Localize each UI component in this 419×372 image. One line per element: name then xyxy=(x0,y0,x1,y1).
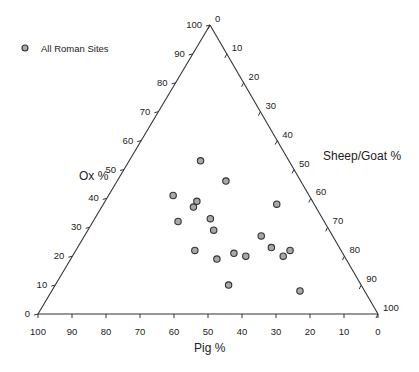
bottom-axis-title: Pig % xyxy=(194,341,226,355)
data-point xyxy=(175,218,181,224)
points-group xyxy=(170,158,303,294)
data-point xyxy=(170,192,176,198)
right-axis-title: Sheep/Goat % xyxy=(323,149,401,163)
right-tick-label: 70 xyxy=(333,215,344,226)
left-tick-label: 40 xyxy=(88,192,99,203)
right-tick xyxy=(242,83,244,87)
bottom-tick-label: 20 xyxy=(305,326,316,337)
data-point xyxy=(192,247,198,253)
right-tick xyxy=(292,170,294,174)
legend-marker xyxy=(22,45,28,51)
data-point xyxy=(225,282,231,288)
legend: All Roman Sites xyxy=(22,43,109,54)
left-tick-label: 30 xyxy=(71,221,82,232)
left-tick-label: 60 xyxy=(123,135,134,146)
left-tick-label: 0 xyxy=(25,308,30,319)
data-point xyxy=(268,244,274,250)
legend-label: All Roman Sites xyxy=(41,43,109,54)
right-tick-label: 30 xyxy=(265,100,276,111)
right-tick xyxy=(359,285,361,289)
bottom-tick-label: 60 xyxy=(169,326,180,337)
data-point xyxy=(231,250,237,256)
right-tick-label: 90 xyxy=(366,273,377,284)
data-point xyxy=(280,253,286,259)
bottom-tick-label: 90 xyxy=(67,326,78,337)
data-point xyxy=(297,288,303,294)
left-tick xyxy=(34,314,38,315)
right-tick xyxy=(326,227,328,231)
left-tick-label: 70 xyxy=(140,106,151,117)
ternary-chart: 1009080706050403020100010203040506070809… xyxy=(0,0,419,372)
data-point xyxy=(287,247,293,253)
right-tick-label: 100 xyxy=(383,302,399,313)
data-point xyxy=(258,233,264,239)
right-tick-label: 50 xyxy=(299,158,310,169)
data-point xyxy=(210,227,216,233)
data-point xyxy=(190,204,196,210)
bottom-tick-label: 40 xyxy=(237,326,248,337)
left-tick-label: 20 xyxy=(54,250,65,261)
right-tick xyxy=(225,54,227,58)
right-tick xyxy=(309,198,311,202)
bottom-tick-label: 30 xyxy=(271,326,282,337)
right-tick xyxy=(258,112,260,116)
left-tick-label: 90 xyxy=(174,48,185,59)
data-point xyxy=(197,158,203,164)
right-tick-label: 20 xyxy=(249,71,260,82)
bottom-tick-label: 70 xyxy=(135,326,146,337)
left-tick-label: 80 xyxy=(157,77,168,88)
right-tick xyxy=(275,141,277,145)
bottom-tick-label: 80 xyxy=(101,326,112,337)
data-point xyxy=(214,256,220,262)
right-tick-label: 10 xyxy=(232,42,243,53)
bottom-tick-label: 10 xyxy=(339,326,350,337)
data-point xyxy=(274,201,280,207)
bottom-tick-label: 0 xyxy=(375,326,380,337)
right-tick-label: 40 xyxy=(282,129,293,140)
data-point xyxy=(223,178,229,184)
data-point xyxy=(243,253,249,259)
right-tick-label: 60 xyxy=(316,186,327,197)
data-point xyxy=(207,215,213,221)
bottom-tick-label: 50 xyxy=(203,326,214,337)
right-tick-label: 80 xyxy=(349,244,360,255)
bottom-tick-label: 100 xyxy=(30,326,46,337)
right-tick-label: 0 xyxy=(215,13,220,24)
left-tick-label: 10 xyxy=(37,279,48,290)
left-tick-label: 100 xyxy=(186,19,202,30)
left-axis-title: Ox % xyxy=(79,169,109,183)
right-tick xyxy=(342,256,344,260)
